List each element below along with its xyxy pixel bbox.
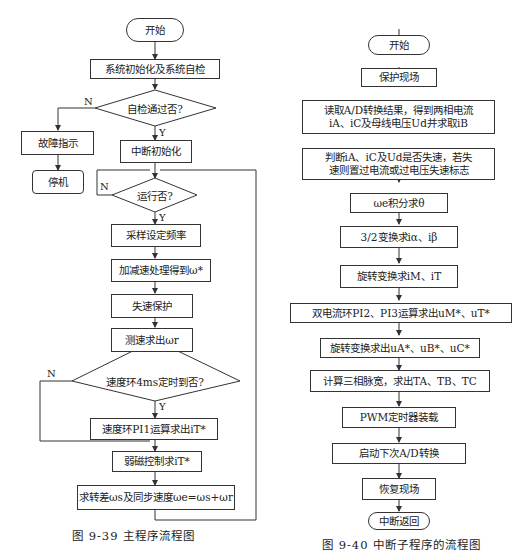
left-slip: 求转差ωs及同步速度ωe=ωs+ωr xyxy=(77,485,235,510)
right-judge-line2: 速则置过电流或过电压失速标志 xyxy=(329,164,469,177)
right-read-ad-line2: iA、iC及母线电压Ud并求取iB xyxy=(329,117,468,130)
left-run-yes: Y xyxy=(159,212,166,223)
right-read-ad-line1: 读取A/D转换结果，得到两相电流 xyxy=(324,104,474,117)
right-judge-line1: 判断iA、iC及Ud是否失速，若失 xyxy=(325,151,473,164)
right-start: 开始 xyxy=(368,35,430,55)
left-stall: 失速保护 xyxy=(111,294,193,318)
right-32-transform: 3/2变换求iα、iβ xyxy=(340,226,458,248)
left-timer-no: N xyxy=(47,368,56,379)
right-caption: 图 9-40 中断子程序的流程图 xyxy=(322,536,481,552)
left-selfcheck-yes: Y xyxy=(159,127,166,138)
left-caption: 图 9-39 主程序流程图 xyxy=(72,527,195,543)
left-run-no: N xyxy=(100,181,109,192)
left-accel: 加减速处理得到ω* xyxy=(111,259,211,282)
left-flux: 弱磁控制求iT* xyxy=(112,451,202,472)
right-integrate: ωe积分求θ xyxy=(350,193,448,213)
left-stop: 停机 xyxy=(32,170,84,194)
right-rot2: 旋转变换求出uA*、uB*、uC* xyxy=(320,338,480,358)
right-judge: 判断iA、iC及Ud是否失速，若失 速则置过电流或过电压失速标志 xyxy=(302,148,495,180)
left-init: 系统初始化及系统自检 xyxy=(90,59,220,79)
right-protect: 保护现场 xyxy=(361,68,437,87)
left-measure: 测速求出ωr xyxy=(111,328,193,352)
right-return: 中断返回 xyxy=(368,512,430,530)
left-pi1: 速度环PI1运算求出iT* xyxy=(90,418,218,440)
right-rot1: 旋转变换求iM、iT xyxy=(340,265,458,288)
left-selfcheck: 自检通过否? xyxy=(115,101,195,116)
left-run: 运行否? xyxy=(125,188,185,203)
right-read-ad: 读取A/D转换结果，得到两相电流 iA、iC及母线电压Ud并求取iB xyxy=(302,100,495,134)
left-start: 开始 xyxy=(126,18,184,42)
right-dual-pi: 双电流环PI2、PI3运算求出uM*、uT* xyxy=(290,303,512,323)
left-fault: 故障指示 xyxy=(21,131,94,155)
right-pwm-load: PWM定时器装载 xyxy=(342,407,456,428)
right-restore: 恢复现场 xyxy=(362,478,436,500)
right-pwm-calc: 计算三相脉宽，求出TA、TB、TC xyxy=(310,370,490,392)
left-timer-yes: Y xyxy=(159,401,166,412)
left-sample: 采样设定频率 xyxy=(111,224,201,247)
left-selfcheck-no: N xyxy=(84,96,93,107)
right-next-ad: 启动下次A/D转换 xyxy=(332,443,466,464)
left-int-init: 中断初始化 xyxy=(120,140,192,163)
left-speed-timer: 速度环4ms定时到否? xyxy=(100,374,210,389)
